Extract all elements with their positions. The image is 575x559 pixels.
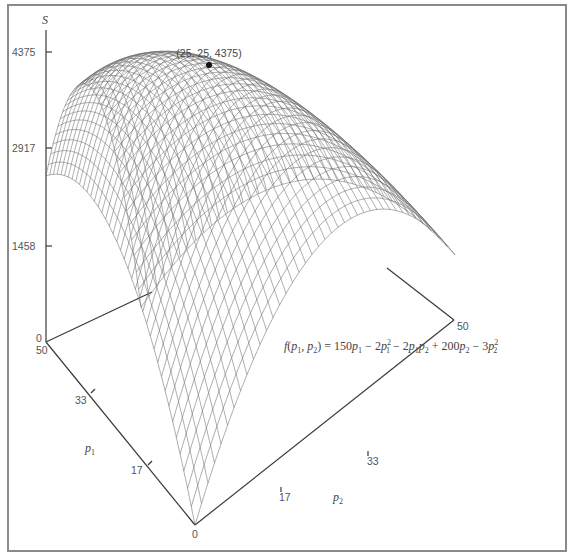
- p1-tick-label-17: 17: [131, 464, 143, 476]
- mesh-line-p2: [51, 151, 208, 483]
- s-tick-label-0: 0: [36, 332, 42, 344]
- mesh-line-p1: [176, 157, 415, 438]
- maximum-point-marker: [206, 62, 212, 68]
- mesh-line-p2: [94, 51, 326, 239]
- mesh-line-p2: [65, 95, 247, 375]
- back-edge-left: [46, 292, 152, 342]
- back-edge-right: [387, 268, 454, 320]
- axes: [46, 30, 454, 525]
- s-tick-label-1458: 1458: [12, 240, 36, 252]
- mesh-line-p1: [158, 115, 377, 362]
- p1-axis-label: p1: [84, 441, 95, 457]
- p1-tick-17: [148, 461, 152, 465]
- function-formula: f(p1, p2) = 150p1 − 2p21 − 2p1p2 + 200p2…: [284, 338, 498, 355]
- p1-axis: [46, 342, 195, 525]
- p1-tick-label-33: 33: [75, 394, 87, 406]
- maximum-point-label: (25, 25, 4375): [176, 47, 241, 59]
- mesh-line-p1: [173, 148, 408, 422]
- p2-tick-label-17: 17: [279, 491, 291, 503]
- s-tick-label-4375: 4375: [12, 46, 36, 58]
- mesh-line-p2: [53, 140, 214, 463]
- mesh-line-p2: [58, 120, 228, 425]
- mesh-line-p2: [60, 111, 234, 408]
- s-tick-label-2917: 2917: [12, 142, 36, 154]
- p2-tick-label-33: 33: [367, 455, 379, 467]
- s-axis-label: S: [42, 13, 48, 27]
- p1-tick-label-50: 50: [36, 344, 48, 356]
- mesh-line-p2: [103, 57, 351, 219]
- mesh-line-p1: [72, 58, 196, 241]
- p2-tick-label-50: 50: [457, 320, 469, 332]
- mesh-line-p2: [48, 162, 201, 504]
- p2-axis-label: p2: [332, 490, 343, 506]
- mesh-line-p1: [180, 167, 424, 455]
- origin-label: 0: [192, 528, 198, 540]
- mesh-line-p1: [143, 89, 345, 311]
- surface-mesh: [46, 51, 455, 525]
- surface-plot: S 4375 2917 1458 0 50 33 17 p1 0 17 33 5…: [0, 0, 575, 559]
- p1-tick-33: [91, 389, 95, 393]
